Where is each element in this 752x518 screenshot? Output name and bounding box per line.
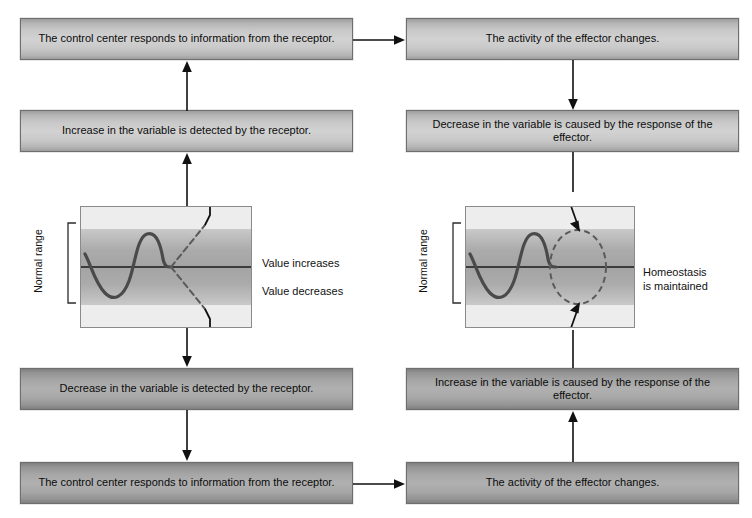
graph-left-axis-label-text: Normal range (32, 229, 44, 293)
process-box-second-right[interactable]: Decrease in the variable is caused by th… (406, 110, 739, 152)
arrow-second-left-up (178, 60, 196, 111)
graph-left-annotation-decrease: Value decreases (262, 271, 343, 299)
process-box-top-right[interactable]: The activity of the effector changes. (406, 18, 739, 60)
graph-left-upper-band (81, 229, 251, 267)
graph-right-axis-label: Normal range (417, 221, 429, 301)
graph-left-axis-label: Normal range (32, 221, 44, 301)
normal-range-bracket-left (66, 222, 78, 304)
process-box-bottom-right[interactable]: The activity of the effector changes. (406, 462, 739, 504)
arrow-top-right-down-to-second-right (564, 60, 582, 111)
graph-right-axis-label-text: Normal range (417, 229, 429, 293)
process-box-top-left[interactable]: The control center responds to informati… (20, 18, 353, 60)
process-box-top-right-label: The activity of the effector changes. (478, 32, 667, 45)
graph-left-annotation-increase-text: Value increases (262, 257, 339, 269)
graph-right-annotation: Homeostasis is maintained (643, 252, 708, 293)
arrow-graph-left-down-to-third-left (178, 326, 196, 368)
process-box-third-right[interactable]: Increase in the variable is caused by th… (406, 368, 739, 410)
homeostasis-flow-diagram: The control center responds to informati… (0, 0, 752, 518)
arrow-second-right-down-to-graph-right (564, 152, 582, 208)
arrow-top-left-to-top-right (353, 31, 407, 49)
process-box-bottom-right-label: The activity of the effector changes. (478, 476, 667, 489)
process-box-top-left-label: The control center responds to informati… (31, 32, 343, 45)
graph-panel-left (80, 206, 252, 328)
graph-left-annotation-decrease-text: Value decreases (262, 285, 343, 297)
arrow-bottom-right-up-to-third-right (564, 410, 582, 462)
graph-left-lower-band (81, 267, 251, 305)
process-box-second-right-label: Decrease in the variable is caused by th… (407, 118, 738, 144)
process-box-bottom-left-label: The control center responds to informati… (31, 476, 343, 489)
process-box-third-left-label: Decrease in the variable is detected by … (52, 382, 322, 395)
arrow-graph-left-up-to-second-left (178, 152, 196, 208)
graph-left-svg (81, 207, 251, 327)
arrow-bottom-left-to-bottom-right (353, 475, 407, 493)
process-box-second-left-label: Increase in the variable is detected by … (54, 124, 319, 137)
graph-right-lower-band (466, 267, 634, 305)
graph-right-svg (466, 207, 634, 327)
graph-panel-right (465, 206, 635, 328)
arrow-third-left-down-to-bottom-left (178, 410, 196, 462)
process-box-third-right-label: Increase in the variable is caused by th… (407, 376, 738, 402)
process-box-second-left[interactable]: Increase in the variable is detected by … (20, 110, 353, 152)
arrow-third-right-up-to-graph-right (564, 326, 582, 368)
graph-left-annotation-increase: Value increases (262, 243, 339, 271)
process-box-bottom-left[interactable]: The control center responds to informati… (20, 462, 353, 504)
normal-range-bracket-right (451, 222, 463, 304)
process-box-third-left[interactable]: Decrease in the variable is detected by … (20, 368, 353, 410)
graph-right-annotation-text: Homeostasis is maintained (643, 266, 708, 292)
